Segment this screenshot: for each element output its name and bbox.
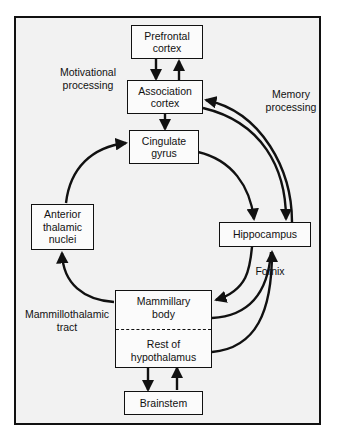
node-rest-of-hypothalamus-line2: hypothalamus — [131, 351, 196, 364]
node-anterior-thalamic-nuclei-line3: nuclei — [49, 233, 76, 246]
node-cingulate-gyrus-line2: gyrus — [151, 147, 177, 160]
node-prefrontal-cortex[interactable]: Prefrontal cortex — [131, 25, 203, 59]
edge-anterior-thalamic-to-cingulate — [66, 143, 126, 203]
edge-hippocampus-to-mammillary-fornix — [216, 247, 252, 300]
node-association-cortex-line2: cortex — [151, 97, 180, 110]
label-motivational-processing-line2: processing — [50, 79, 126, 92]
label-memory-processing: Memory processing — [258, 88, 324, 113]
node-association-cortex-line1: Association — [138, 85, 192, 98]
node-rest-of-hypothalamus[interactable]: Rest of hypothalamus — [116, 338, 211, 363]
node-mammillary-body[interactable]: Mammillary body — [116, 295, 211, 320]
label-mammillothalamic-tract: Mammillothalamic tract — [21, 308, 113, 333]
node-hippocampus[interactable]: Hippocampus — [219, 222, 311, 247]
node-prefrontal-cortex-line2: cortex — [153, 42, 182, 55]
node-brainstem-line1: Brainstem — [140, 397, 187, 410]
edge-association-to-hippocampus — [203, 108, 286, 219]
diagram-figure: Prefrontal cortex Association cortex Cin… — [0, 0, 338, 439]
label-mammillothalamic-tract-line2: tract — [21, 321, 113, 334]
node-brainstem[interactable]: Brainstem — [124, 391, 203, 415]
label-memory-processing-line1: Memory — [258, 88, 324, 101]
node-anterior-thalamic-nuclei-line2: thalamic — [43, 221, 82, 234]
node-cingulate-gyrus-line1: Cingulate — [142, 135, 186, 148]
node-hippocampus-line1: Hippocampus — [233, 228, 297, 241]
node-hypothalamic-complex[interactable]: Mammillary body Rest of hypothalamus — [115, 290, 212, 368]
node-anterior-thalamic-nuclei[interactable]: Anterior thalamic nuclei — [31, 204, 94, 250]
node-prefrontal-cortex-line1: Prefrontal — [144, 30, 190, 43]
node-rest-of-hypothalamus-line1: Rest of — [147, 338, 180, 351]
label-memory-processing-line2: processing — [258, 101, 324, 114]
node-cingulate-gyrus[interactable]: Cingulate gyrus — [129, 130, 199, 164]
label-mammillothalamic-tract-line1: Mammillothalamic — [21, 308, 113, 321]
label-fornix-line1: Fornix — [249, 265, 291, 278]
hypothalamus-divider — [116, 329, 211, 330]
edge-cingulate-to-hippocampus — [198, 152, 254, 219]
node-mammillary-body-line2: body — [152, 308, 175, 321]
label-motivational-processing-line1: Motivational — [50, 66, 126, 79]
node-association-cortex[interactable]: Association cortex — [127, 80, 203, 114]
label-fornix: Fornix — [249, 265, 291, 278]
node-mammillary-body-line1: Mammillary — [137, 295, 191, 308]
edge-mammillary-to-anterior-thalamic — [62, 253, 114, 302]
label-motivational-processing: Motivational processing — [50, 66, 126, 91]
node-anterior-thalamic-nuclei-line1: Anterior — [44, 208, 81, 221]
